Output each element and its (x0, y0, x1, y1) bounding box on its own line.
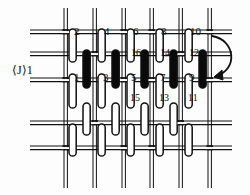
warp-capsule-black (112, 50, 119, 88)
yarn-number-top: 8 (161, 26, 167, 37)
yarn-number-low: 15 (130, 93, 140, 103)
yarn-number-top: 4 (104, 26, 110, 37)
warp-capsule-black (170, 50, 177, 88)
warp-capsule-white (170, 103, 177, 135)
yarn-number-mid: 5 (131, 72, 137, 83)
yarn-number-mid: 3 (103, 72, 109, 83)
yarn-number-low: 13 (159, 93, 169, 103)
weave-diagram (0, 0, 250, 195)
warp-capsule-black (141, 50, 148, 88)
yarn-number-black: 14 (160, 48, 170, 58)
yarn-number-low: 11 (188, 93, 198, 103)
warp-capsule-white (127, 124, 134, 156)
yarn-number-black: 12 (189, 48, 199, 58)
yarn-number-mid: 1 (74, 72, 80, 83)
warp-capsule-white (141, 103, 148, 135)
warp-capsule-white (69, 124, 76, 156)
yarn-number-black: 16 (131, 48, 141, 58)
yarn-number-top: 2 (74, 26, 80, 37)
warp-capsule-white (112, 103, 119, 135)
yarn-number-top: 6 (133, 26, 139, 37)
warp-capsule-white (83, 103, 90, 135)
yarn-number-mid: 9 (189, 72, 195, 83)
warp-capsule-white (156, 124, 163, 156)
warp-capsule-white (98, 124, 105, 156)
warp-capsule-white (185, 124, 192, 156)
yarn-number-top: 10 (190, 26, 201, 37)
warp-capsule-black (199, 50, 206, 88)
figure-root: 24681016141213579151311⟨J⟩1 (0, 0, 250, 195)
direction-label: ⟨J⟩1 (12, 64, 33, 76)
yarn-number-mid: 7 (160, 72, 166, 83)
warp-capsule-black (83, 50, 90, 88)
